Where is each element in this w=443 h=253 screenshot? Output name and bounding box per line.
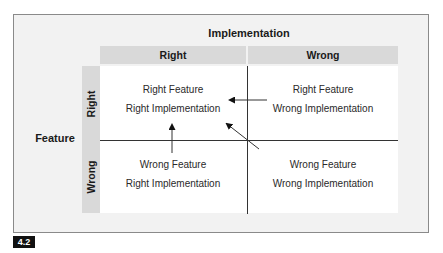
row-header-right-label: Right (85, 90, 97, 117)
cell-line-2: Wrong Implementation (248, 174, 398, 193)
cell-wrong-feature-wrong-implementation: Wrong Feature Wrong Implementation (248, 155, 398, 193)
column-header-right: Right (100, 46, 246, 64)
y-axis-title: Feature (30, 132, 80, 144)
row-header-wrong-label: Wrong (85, 160, 97, 193)
cell-line-2: Wrong Implementation (248, 99, 398, 118)
cell-line-1: Right Feature (248, 80, 398, 99)
cell-line-2: Right Implementation (100, 99, 246, 118)
figure-number-badge: 4.2 (13, 236, 35, 248)
row-header-wrong: Wrong (82, 141, 100, 213)
cell-wrong-feature-right-implementation: Wrong Feature Right Implementation (100, 155, 246, 193)
cell-right-feature-right-implementation: Right Feature Right Implementation (100, 80, 246, 118)
x-axis-title: Implementation (100, 27, 398, 39)
cell-right-feature-wrong-implementation: Right Feature Wrong Implementation (248, 80, 398, 118)
horizontal-divider (100, 140, 398, 141)
row-header-right: Right (82, 66, 100, 141)
cell-line-2: Right Implementation (100, 174, 246, 193)
cell-line-1: Wrong Feature (248, 155, 398, 174)
cell-line-1: Wrong Feature (100, 155, 246, 174)
cell-line-1: Right Feature (100, 80, 246, 99)
column-header-wrong: Wrong (248, 46, 398, 64)
